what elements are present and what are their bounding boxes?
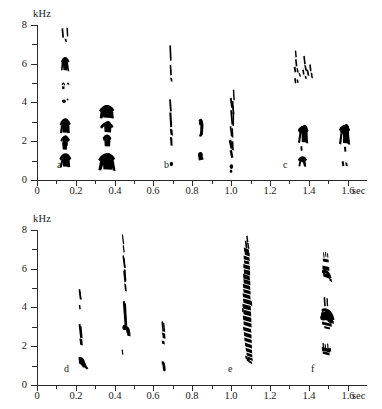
spectrogram-panel-top: kHz 8 6 4 2 0 0 0	[0, 0, 382, 204]
x-tick-1.1	[251, 181, 252, 184]
x-tick-0.9	[212, 181, 213, 184]
x-tick-0.5	[134, 181, 135, 184]
panel-letter-a: a	[57, 160, 61, 170]
y-tick-2-bottom	[31, 346, 37, 347]
x-axis-unit-label: sec	[352, 186, 378, 197]
panel-letter-e: e	[228, 364, 232, 374]
y-tick-5	[32, 83, 37, 84]
y-tick-label-8-bottom: 8	[11, 225, 27, 236]
y-tick-6	[31, 64, 37, 65]
y-tick-5-bottom	[32, 288, 37, 289]
x-tick-label-1.0: 1.0	[211, 186, 251, 197]
y-tick-2	[31, 141, 37, 142]
x-tick-1.3-bottom	[289, 386, 290, 389]
x-tick-0.7-bottom	[173, 386, 174, 389]
y-tick-3	[32, 122, 37, 123]
panel-letter-b: b	[164, 160, 169, 170]
y-tick-7-bottom	[32, 249, 37, 250]
x-tick-1.5	[328, 181, 329, 184]
y-tick-7	[32, 44, 37, 45]
x-tick-0.1	[56, 181, 57, 184]
y-tick-4-bottom	[31, 307, 37, 308]
x-tick-label-1.4: 1.4	[289, 186, 329, 197]
x-tick-1.3	[289, 181, 290, 184]
y-tick-1-bottom	[32, 366, 37, 367]
y-tick-4	[31, 102, 37, 103]
x-tick-label-0.4-bottom: 0.4	[95, 391, 135, 402]
y-tick-label-6-bottom: 6	[11, 264, 27, 275]
x-axis-unit-label-bottom: sec	[352, 391, 378, 402]
panel-letter-c: c	[283, 160, 287, 170]
x-tick-label-0.0-bottom: 0	[17, 391, 57, 402]
spectrogram-panel-bottom: kHz 8 6 4 2 0 0 0.2 0.4	[0, 205, 382, 409]
x-axis-line	[37, 180, 367, 181]
y-tick-1	[32, 161, 37, 162]
y-tick-label-2: 2	[11, 136, 27, 147]
y-tick-8	[31, 25, 37, 26]
spectrogram-ink-bottom	[0, 205, 382, 409]
y-tick-label-4-bottom: 4	[11, 302, 27, 313]
x-tick-label-1.2: 1.2	[250, 186, 290, 197]
y-tick-3-bottom	[32, 327, 37, 328]
x-tick-label-1.0-bottom: 1.0	[211, 391, 251, 402]
x-axis-line-bottom	[37, 385, 367, 386]
x-tick-1.1-bottom	[251, 386, 252, 389]
x-tick-label-0.8: 0.8	[172, 186, 212, 197]
x-tick-label-0.6: 0.6	[133, 186, 173, 197]
y-axis-unit-label-bottom: kHz	[33, 213, 51, 224]
x-tick-0.7	[173, 181, 174, 184]
x-tick-label-1.2-bottom: 1.2	[250, 391, 290, 402]
x-tick-1.5-bottom	[328, 386, 329, 389]
x-tick-label-1.4-bottom: 1.4	[289, 391, 329, 402]
y-axis-unit-label: kHz	[33, 8, 51, 19]
spectrogram-ink-top	[0, 0, 382, 204]
spectrogram-figure: kHz 8 6 4 2 0 0 0	[0, 0, 382, 409]
x-tick-label-0.2: 0.2	[56, 186, 96, 197]
y-axis-line-bottom	[37, 230, 38, 386]
y-tick-label-8: 8	[11, 20, 27, 31]
y-tick-label-0-bottom: 0	[11, 380, 27, 391]
y-tick-label-2-bottom: 2	[11, 341, 27, 352]
x-tick-label-0.0: 0	[17, 186, 57, 197]
y-tick-label-6: 6	[11, 59, 27, 70]
x-tick-0.3	[95, 181, 96, 184]
x-tick-label-0.8-bottom: 0.8	[172, 391, 212, 402]
panel-letter-f: f	[311, 364, 314, 374]
panel-letter-d: d	[64, 364, 69, 374]
x-tick-0.1-bottom	[56, 386, 57, 389]
x-tick-0.3-bottom	[95, 386, 96, 389]
y-tick-6-bottom	[31, 269, 37, 270]
x-tick-0.9-bottom	[212, 386, 213, 389]
y-tick-8-bottom	[31, 230, 37, 231]
x-tick-label-0.2-bottom: 0.2	[56, 391, 96, 402]
y-tick-label-0: 0	[11, 175, 27, 186]
y-tick-label-4: 4	[11, 97, 27, 108]
x-tick-0.5-bottom	[134, 386, 135, 389]
x-tick-label-0.6-bottom: 0.6	[133, 391, 173, 402]
y-axis-line	[37, 25, 38, 181]
x-tick-label-0.4: 0.4	[95, 186, 135, 197]
